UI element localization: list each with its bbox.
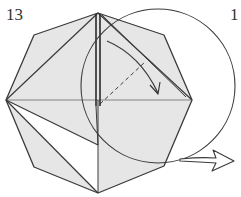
diagram-svg	[0, 0, 241, 197]
next-step-arrow-icon	[180, 150, 234, 171]
next-step-number-label: 1	[230, 6, 239, 23]
octagon-paper	[6, 13, 192, 193]
step-number-label: 13	[6, 6, 23, 23]
origami-diagram: 13 1	[0, 0, 241, 197]
